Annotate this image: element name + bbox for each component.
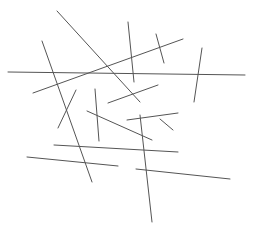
line-drawing-canvas bbox=[0, 0, 254, 238]
canvas-background bbox=[0, 0, 254, 238]
